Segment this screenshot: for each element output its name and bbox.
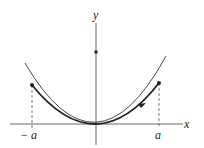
x-axis-label: x (184, 118, 189, 130)
highlighted-arc (32, 83, 159, 124)
parabola-curve (25, 56, 166, 122)
point-pos-a (157, 81, 161, 85)
focus-point (95, 51, 98, 54)
parabola-diagram (0, 0, 204, 148)
y-axis-label: y (93, 9, 98, 21)
tick-label-neg-a: − a (20, 129, 37, 141)
point-neg-a (30, 83, 34, 87)
tick-label-pos-a: a (155, 129, 161, 141)
diagram: y x − a a (0, 0, 204, 148)
